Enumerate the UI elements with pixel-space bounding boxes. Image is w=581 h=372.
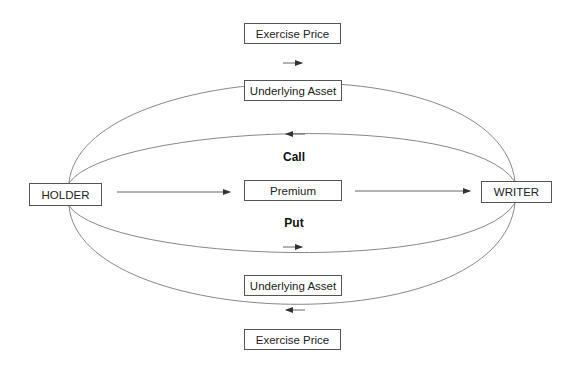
call-exercise-price-box: Exercise Price — [244, 23, 341, 44]
put-underlying-asset-label: Underlying Asset — [250, 280, 336, 292]
call-underlying-asset-box: Underlying Asset — [244, 80, 342, 101]
holder-box: HOLDER — [29, 183, 102, 206]
call-underlying-asset-label: Underlying Asset — [250, 85, 336, 97]
put-exercise-price-label: Exercise Price — [256, 334, 330, 346]
writer-label: WRITER — [494, 186, 539, 198]
call-label: Call — [283, 150, 305, 164]
put-exercise-price-box: Exercise Price — [244, 329, 341, 350]
put-label: Put — [284, 216, 303, 230]
holder-label: HOLDER — [42, 189, 90, 201]
premium-label: Premium — [270, 185, 316, 197]
writer-box: WRITER — [481, 181, 552, 203]
premium-box: Premium — [244, 180, 342, 201]
call-exercise-price-label: Exercise Price — [256, 28, 330, 40]
put-underlying-asset-box: Underlying Asset — [244, 275, 342, 296]
